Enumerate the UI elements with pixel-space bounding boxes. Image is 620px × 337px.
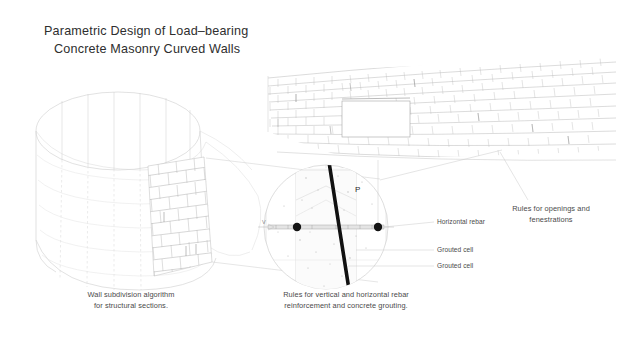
callout-horizontal-rebar: Horizontal rebar xyxy=(437,218,485,225)
caption-wall-subdivision-line-2: for structural sections. xyxy=(47,300,215,311)
caption-rebar-rules-line-1: Rules for vertical and horizontal rebar xyxy=(246,289,446,300)
caption-rebar-rules-line-2: reinforcement and concrete grouting. xyxy=(246,300,446,311)
caption-wall-subdivision: Wall subdivision algorithm for structura… xyxy=(47,289,215,311)
perspective-brick-wall xyxy=(264,50,620,170)
detail-vertical-mark-label: V xyxy=(262,219,266,225)
caption-openings-rules-line-1: Rules for openings and xyxy=(489,203,613,214)
caption-wall-subdivision-line-1: Wall subdivision algorithm xyxy=(47,289,215,300)
caption-openings-rules-line-2: fenestrations xyxy=(489,214,613,225)
page-title: Parametric Design of Load–bearing Concre… xyxy=(44,22,364,59)
curved-wall-cylinder-figure xyxy=(36,92,261,290)
rebar-detail-circle xyxy=(258,160,394,296)
caption-rebar-rules: Rules for vertical and horizontal rebar … xyxy=(246,289,446,311)
caption-openings-rules: Rules for openings and fenestrations xyxy=(489,203,613,225)
title-line-2: Concrete Masonry Curved Walls xyxy=(44,40,364,58)
title-line-1: Parametric Design of Load–bearing xyxy=(44,22,364,40)
diagram-canvas: Parametric Design of Load–bearing Concre… xyxy=(0,0,620,337)
detail-point-p-label: P xyxy=(355,185,360,194)
callout-grouted-cell-1: Grouted cell xyxy=(437,246,473,253)
callout-grouted-cell-2: Grouted cell xyxy=(437,262,473,269)
